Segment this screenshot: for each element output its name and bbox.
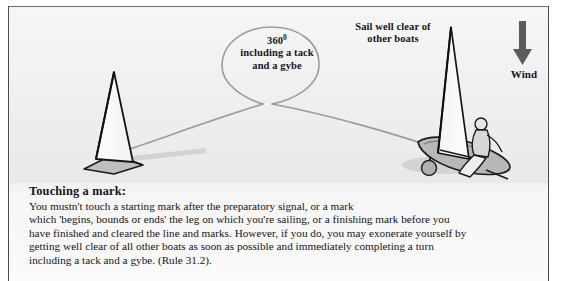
caption-line: getting well clear of all other boats as… [29,240,521,254]
sail-clear-line1: Sail well clear of [355,21,430,32]
mark-buoy-ball [422,161,437,176]
caption-title: Touching a mark: [29,184,521,199]
rules-diagram-page: 3600 including a tack and a gybe Sail we… [0,0,566,281]
sailor-head [475,118,487,130]
sail-clear-line2: other boats [367,33,418,44]
turn-label-line3: and a gybe [252,60,301,71]
sailor-torso [472,130,490,157]
turn-label-line2: including a tack [240,47,313,58]
caption-body: You mustn't touch a starting mark after … [29,200,521,268]
caption-line: which 'begins, bounds or ends' the leg o… [29,213,521,227]
caption-line: including a tack and a gybe. (Rule 31.2)… [29,254,521,268]
sail-clear-label: Sail well clear of other boats [332,21,454,46]
turn-degrees-value: 360 [267,35,283,46]
caption-line: have finished and cleared the line and m… [29,227,521,241]
wind-arrow-shaft [519,21,526,51]
turn-annotation-label: 3600 including a tack and a gybe [218,35,336,72]
wind-label: Wind [498,68,548,81]
caption-block: Touching a mark: You mustn't touch a sta… [29,184,521,267]
degree-symbol: 0 [283,33,287,42]
diagram-illustration: 3600 including a tack and a gybe Sail we… [10,7,548,183]
caption-line: You mustn't touch a starting mark after … [29,200,521,214]
